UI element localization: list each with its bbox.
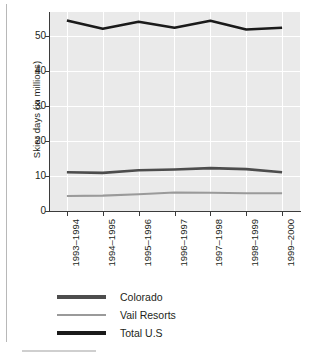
- legend-item: Total U.S: [57, 324, 176, 342]
- x-axis-tick-label: 1993–1994: [71, 219, 81, 267]
- x-axis-tick-mark: [175, 212, 176, 216]
- y-axis-tick-mark: [45, 106, 49, 107]
- series-layer: [49, 12, 300, 211]
- legend-swatch: [57, 331, 106, 334]
- y-axis-tick-label: 10: [16, 171, 46, 181]
- y-axis-tick-label: 50: [16, 31, 46, 41]
- legend-item: Vail Resorts: [57, 306, 176, 324]
- chart-figure: Skier days (in millions) 01020304050 199…: [0, 0, 320, 360]
- x-axis-tick-label: 1995–1996: [143, 219, 153, 267]
- x-axis-tick-label: 1997–1998: [214, 219, 224, 267]
- y-axis-tick-mark: [45, 176, 49, 177]
- legend-label: Total U.S: [120, 328, 163, 339]
- legend-swatch: [57, 295, 106, 298]
- x-axis-tick-label: 1999–2000: [286, 219, 296, 267]
- x-axis-tick-mark: [139, 212, 140, 216]
- chart-legend: ColoradoVail ResortsTotal U.S: [57, 288, 176, 342]
- series-line-total-u-s: [67, 20, 282, 29]
- legend-item: Colorado: [57, 288, 176, 306]
- y-axis-tick-label: 0: [16, 206, 46, 216]
- y-axis-line: [49, 12, 50, 212]
- x-axis-tick-mark: [246, 212, 247, 216]
- x-axis-tick-label: 1998–1999: [250, 219, 260, 267]
- y-axis-tick-label: 40: [16, 66, 46, 76]
- x-axis-tick-label: 1996–1997: [179, 219, 189, 267]
- y-axis-tick-label: 20: [16, 136, 46, 146]
- x-axis-tick-mark: [282, 212, 283, 216]
- series-line-vail-resorts: [67, 193, 282, 197]
- plot-area: [49, 12, 300, 211]
- y-axis-tick-mark: [45, 211, 49, 212]
- legend-label: Vail Resorts: [120, 310, 176, 321]
- x-axis-tick-mark: [103, 212, 104, 216]
- x-axis-tick-mark: [67, 212, 68, 216]
- legend-label: Colorado: [120, 292, 163, 303]
- x-axis-tick-label: 1994–1995: [107, 219, 117, 267]
- y-axis-tick-mark: [45, 141, 49, 142]
- plot-inner: [49, 12, 300, 211]
- bottom-divider-rule: [22, 350, 96, 352]
- y-axis-tick-mark: [45, 71, 49, 72]
- x-axis-tick-mark: [210, 212, 211, 216]
- y-axis-tick-mark: [45, 36, 49, 37]
- left-vertical-rule: [6, 4, 7, 342]
- legend-swatch: [57, 314, 106, 316]
- series-line-colorado: [67, 168, 282, 173]
- y-axis-tick-label: 30: [16, 101, 46, 111]
